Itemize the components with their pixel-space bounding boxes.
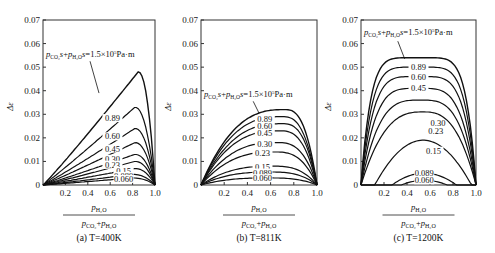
curve-label: 0.60	[411, 72, 426, 82]
chart-panel-2: 00.010.020.030.040.050.060.070.20.40.60.…	[163, 15, 323, 244]
y-tick-label: 0.04	[24, 86, 40, 96]
x-tick-label: 0.4	[401, 188, 413, 198]
plot-frame	[201, 20, 317, 185]
x-axis-label-numerator: pH₂O	[90, 202, 107, 213]
curve-label: 0.060	[114, 174, 133, 184]
curve-label: 0.23	[255, 148, 270, 158]
x-tick-label: 0.4	[82, 188, 94, 198]
x-tick-label: 0.4	[242, 188, 254, 198]
x-tick-label: 0.8	[127, 188, 139, 198]
y-axis-label: Δε	[163, 102, 173, 112]
y-tick-label: 0.04	[182, 86, 198, 96]
x-tick-label: 0.2	[219, 188, 230, 198]
x-axis-label-denominator: pCO₂+pH₂O	[400, 218, 436, 229]
y-tick-label: 0.01	[24, 156, 40, 166]
y-tick-label: 0.02	[342, 133, 358, 143]
plot-frame	[361, 20, 476, 185]
curve-label: 0.15	[426, 146, 441, 156]
figure: 00.010.020.030.040.050.060.070.20.40.60.…	[0, 0, 495, 253]
y-tick-label: 0.06	[182, 39, 198, 49]
y-tick-label: 0.03	[342, 109, 358, 119]
curve-0.60	[43, 129, 155, 185]
annotation-label: pCO₂s+pH₂Os=1.5×105Pa·m	[203, 89, 293, 100]
y-tick-label: 0.07	[24, 15, 40, 25]
curve-label: 0.45	[257, 128, 272, 138]
y-tick-label: 0	[36, 180, 41, 190]
y-tick-label: 0.02	[24, 133, 40, 143]
curve-label: 0.60	[105, 131, 120, 141]
y-tick-label: 0.06	[24, 39, 40, 49]
curve-label: 0.060	[253, 173, 272, 183]
y-tick-label: 0.05	[342, 62, 358, 72]
x-tick-label: 0.2	[378, 188, 389, 198]
annotation-leader	[90, 61, 99, 93]
x-tick-label: 1.0	[149, 188, 161, 198]
y-tick-label: 0.01	[342, 156, 358, 166]
x-axis-label-numerator: pH₂O	[250, 202, 267, 213]
annotation-leader	[253, 101, 259, 113]
annotation-leader	[398, 41, 405, 59]
y-axis-label: Δε	[5, 102, 15, 112]
curve-label: 0.89	[105, 113, 120, 123]
x-tick-label: 0.8	[288, 188, 300, 198]
x-axis-label-numerator: pH₂O	[410, 202, 427, 213]
x-tick-label: 1.0	[311, 188, 323, 198]
x-tick-label: 0.6	[424, 188, 436, 198]
y-tick-label: 0	[194, 180, 199, 190]
y-tick-label: 0.05	[24, 62, 40, 72]
y-tick-label: 0.02	[182, 133, 198, 143]
x-tick-label: 0.6	[265, 188, 277, 198]
y-tick-label: 0.07	[182, 15, 198, 25]
curve-label: 0.45	[105, 144, 120, 154]
annotation-label: pCO₂s+pH₂Os=1.5×105Pa·m	[45, 49, 135, 60]
x-tick-label: 0.8	[447, 188, 459, 198]
panel-caption: (c) T=1200K	[394, 233, 444, 244]
y-tick-label: 0.07	[342, 15, 358, 25]
x-tick-label: 0.2	[60, 188, 71, 198]
panel-caption: (b) T=811K	[236, 233, 281, 244]
y-tick-label: 0.06	[342, 39, 358, 49]
x-axis-label-denominator: pCO₂+pH₂O	[81, 218, 117, 229]
y-tick-label: 0.03	[24, 109, 40, 119]
y-axis-label: Δε	[323, 102, 333, 112]
curve-label: 0.45	[411, 83, 426, 93]
curve-label: 0.23	[428, 126, 443, 136]
curve-1.5	[43, 72, 155, 185]
curve-label: 0.060	[415, 175, 434, 185]
y-tick-label: 0.04	[342, 86, 358, 96]
x-tick-label: 1.0	[470, 188, 482, 198]
y-tick-label: 0.03	[182, 109, 198, 119]
annotation-label: pCO₂s+pH₂Os=1.5×105Pa·m	[363, 27, 453, 38]
x-axis-label-denominator: pCO₂+pH₂O	[241, 218, 277, 229]
y-tick-label: 0.05	[182, 62, 198, 72]
y-tick-label: 0.01	[182, 156, 198, 166]
x-tick-label: 0.6	[105, 188, 117, 198]
curve-0.23	[43, 162, 155, 186]
panel-caption: (a) T=400K	[76, 233, 121, 244]
chart-panel-3: 00.010.020.030.040.050.060.070.20.40.60.…	[323, 15, 482, 244]
chart-panel-1: 00.010.020.030.040.050.060.070.20.40.60.…	[5, 15, 161, 244]
y-tick-label: 0	[354, 180, 359, 190]
